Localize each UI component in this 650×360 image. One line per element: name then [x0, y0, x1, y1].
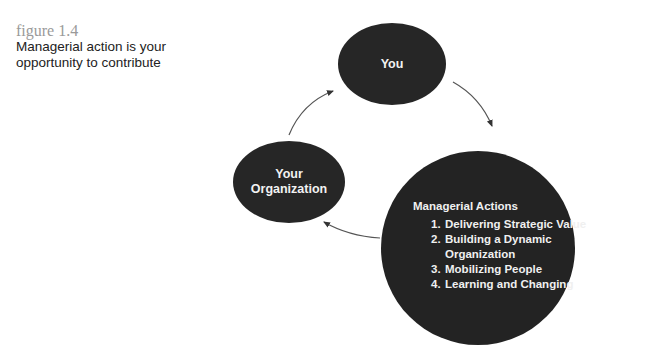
actions-list: 1.Delivering Strategic Value 2.Building …: [413, 217, 586, 292]
action-item: 3.Mobilizing People: [413, 262, 586, 277]
organization-label-line1: Your: [239, 167, 339, 182]
action-item: 2.Building a Dynamic Organization: [413, 232, 561, 262]
action-item: 4.Learning and Changing: [413, 277, 586, 292]
you-node-label: You: [362, 57, 422, 72]
organization-node-label: Your Organization: [239, 167, 339, 197]
actions-heading: Managerial Actions: [413, 199, 586, 214]
arrow-you-to-actions: [453, 82, 492, 126]
arrow-actions-to-organization: [324, 222, 380, 238]
managerial-actions-node: Managerial Actions 1.Delivering Strategi…: [413, 199, 586, 292]
arrow-organization-to-you: [289, 91, 333, 135]
action-item: 1.Delivering Strategic Value: [413, 217, 586, 232]
organization-label-line2: Organization: [239, 182, 339, 197]
